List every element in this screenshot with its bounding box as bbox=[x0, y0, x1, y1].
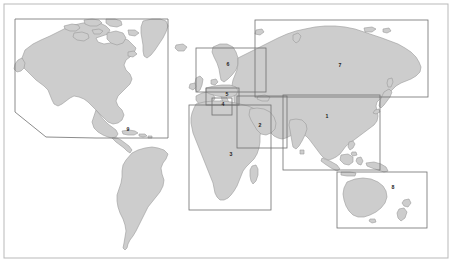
world-map-canvas: 1 2 3 4 5 6 7 8 9 bbox=[0, 0, 453, 265]
landmass-caribbean bbox=[122, 130, 138, 135]
landmass-java bbox=[341, 172, 356, 176]
landmass-layer bbox=[14, 19, 421, 250]
landmass-eurasia bbox=[232, 26, 421, 160]
landmass-sulawesi bbox=[356, 157, 363, 165]
landmass-alaska bbox=[14, 58, 25, 72]
landmass-severnaya-zemlya bbox=[364, 27, 376, 32]
landmass-new-zealand-north bbox=[402, 199, 411, 207]
landmass-south-america bbox=[117, 147, 168, 250]
landmass-arctic-islands-b bbox=[84, 19, 102, 26]
landmass-new-siberian-islands bbox=[383, 28, 391, 33]
landmass-hispaniola bbox=[139, 134, 147, 137]
landmass-sumatra bbox=[321, 158, 340, 171]
landmass-madagascar bbox=[250, 165, 258, 184]
landmass-philippines-b bbox=[351, 152, 357, 156]
landmass-denmark bbox=[211, 79, 218, 85]
landmass-iceland bbox=[175, 44, 187, 51]
region-label-8: 8 bbox=[392, 184, 395, 190]
landmass-new-guinea bbox=[366, 162, 388, 172]
landmass-philippines bbox=[348, 141, 355, 150]
landmass-australia bbox=[343, 178, 387, 217]
landmass-new-zealand-south bbox=[397, 208, 407, 221]
landmass-sri-lanka bbox=[300, 150, 304, 154]
landmass-tasmania bbox=[369, 219, 376, 223]
landmass-arctic-islands-c bbox=[106, 19, 122, 27]
landmass-svalbard bbox=[255, 29, 264, 35]
landmass-newfoundland bbox=[128, 51, 137, 57]
landmass-central-america bbox=[112, 138, 132, 153]
world-map-figure: 1 2 3 4 5 6 7 8 9 bbox=[0, 0, 453, 265]
landmass-india bbox=[289, 119, 307, 149]
landmass-scandinavia bbox=[212, 44, 238, 82]
landmass-borneo bbox=[340, 154, 353, 165]
landmass-arctic-small-b bbox=[128, 30, 139, 36]
landmass-greenland bbox=[141, 19, 168, 58]
